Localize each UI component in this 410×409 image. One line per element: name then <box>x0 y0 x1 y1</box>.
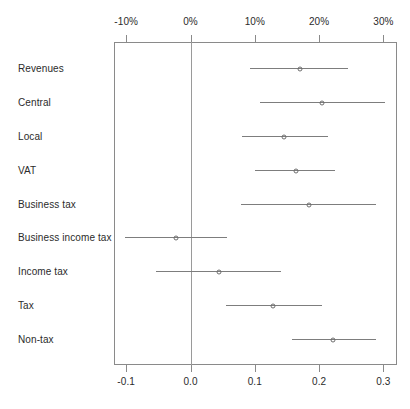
top-axis-tick-2 <box>255 35 256 42</box>
category-label-central: Central <box>18 97 51 108</box>
top-axis-tick-3 <box>319 35 320 42</box>
category-label-business-income-tax: Business income tax <box>18 232 112 243</box>
point-estimate-local <box>281 134 286 139</box>
point-estimate-business-tax <box>306 202 311 207</box>
bottom-axis-tick-2 <box>255 365 256 372</box>
point-estimate-income-tax <box>216 269 221 274</box>
bottom-axis-label-1: 0.0 <box>183 376 197 387</box>
zero-reference-line <box>191 42 192 365</box>
bottom-axis-tick-0 <box>126 365 127 372</box>
top-axis-tick-0 <box>126 35 127 42</box>
top-axis-label-1: 0% <box>183 16 198 27</box>
bottom-axis-label-2: 0.1 <box>248 376 262 387</box>
top-axis-label-4: 30% <box>373 16 393 27</box>
category-label-revenues: Revenues <box>18 63 64 74</box>
top-axis-label-0: -10% <box>114 16 138 27</box>
bottom-axis-tick-1 <box>191 365 192 372</box>
top-axis-label-2: 10% <box>245 16 265 27</box>
category-label-vat: VAT <box>18 165 36 176</box>
category-label-non-tax: Non-tax <box>18 334 54 345</box>
point-estimate-vat <box>293 168 298 173</box>
point-estimate-revenues <box>297 66 302 71</box>
bottom-axis-label-0: -0.1 <box>117 376 135 387</box>
bottom-axis-label-4: 0.3 <box>376 376 390 387</box>
category-label-tax: Tax <box>18 300 34 311</box>
category-label-local: Local <box>18 131 42 142</box>
top-axis-tick-1 <box>191 35 192 42</box>
bottom-axis-label-3: 0.2 <box>312 376 326 387</box>
top-axis-label-3: 20% <box>309 16 329 27</box>
category-label-business-tax: Business tax <box>18 199 76 210</box>
point-estimate-non-tax <box>331 337 336 342</box>
bottom-axis-tick-4 <box>383 365 384 372</box>
top-axis-tick-4 <box>383 35 384 42</box>
point-estimate-business-income-tax <box>174 235 179 240</box>
category-label-income-tax: Income tax <box>18 266 68 277</box>
point-estimate-tax <box>270 303 275 308</box>
coefficient-plot: -10%0%10%20%30% -0.10.00.10.20.3 Revenue… <box>0 0 410 409</box>
bottom-axis-tick-3 <box>319 365 320 372</box>
point-estimate-central <box>320 100 325 105</box>
